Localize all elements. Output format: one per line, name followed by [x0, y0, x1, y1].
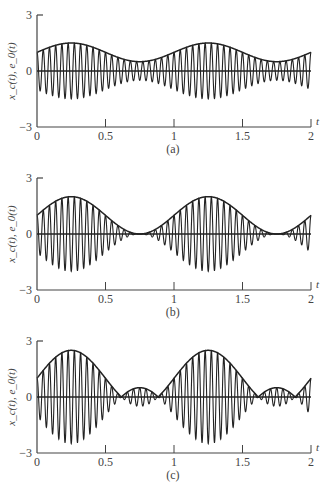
y-tick-label-top: 3	[26, 334, 32, 348]
y-axis-label: x_c(t), e_0(t)	[5, 368, 18, 427]
x-tick-label: 0	[34, 292, 40, 306]
x-tick-label: 0	[34, 129, 40, 143]
x-tick-label: 1.5	[235, 292, 250, 306]
x-tick-label: 2	[308, 455, 314, 469]
t-axis-label: t	[316, 278, 320, 290]
x-tick-label: 0.5	[98, 129, 113, 143]
panel-caption: (c)	[166, 468, 179, 482]
y-tick-label-zero: 0	[26, 64, 32, 78]
x-tick-label: 0.5	[98, 292, 113, 306]
t-axis-label: t	[316, 441, 320, 453]
x-tick-label: 0.5	[98, 455, 113, 469]
x-tick-label: 2	[308, 292, 314, 306]
am-modulation-figure: 00.511.5230−3tx_c(t), e_0(t)(a)00.511.52…	[0, 0, 330, 496]
y-tick-label-bottom: −3	[19, 283, 32, 297]
y-tick-label-zero: 0	[26, 390, 32, 404]
panel-c: 00.511.5230−3tx_c(t), e_0(t)(c)	[5, 334, 320, 482]
y-axis-label: x_c(t), e_0(t)	[5, 42, 18, 101]
t-axis-label: t	[316, 115, 320, 127]
y-tick-label-bottom: −3	[19, 446, 32, 460]
panel-caption: (b)	[166, 305, 180, 319]
y-tick-label-top: 3	[26, 8, 32, 22]
x-tick-label: 1	[171, 455, 177, 469]
envelope-line	[37, 197, 311, 234]
panel-b: 00.511.5230−3tx_c(t), e_0(t)(b)	[5, 171, 320, 319]
x-tick-label: 1.5	[235, 129, 250, 143]
envelope-line	[37, 43, 311, 62]
panel-caption: (a)	[166, 142, 179, 156]
x-tick-label: 0	[34, 455, 40, 469]
y-tick-label-zero: 0	[26, 227, 32, 241]
y-axis-label: x_c(t), e_0(t)	[5, 205, 18, 264]
y-tick-label-bottom: −3	[19, 120, 32, 134]
x-tick-label: 1.5	[235, 455, 250, 469]
x-tick-label: 1	[171, 292, 177, 306]
y-tick-label-top: 3	[26, 171, 32, 185]
x-tick-label: 2	[308, 129, 314, 143]
panel-a: 00.511.5230−3tx_c(t), e_0(t)(a)	[5, 8, 320, 156]
x-tick-label: 1	[171, 129, 177, 143]
